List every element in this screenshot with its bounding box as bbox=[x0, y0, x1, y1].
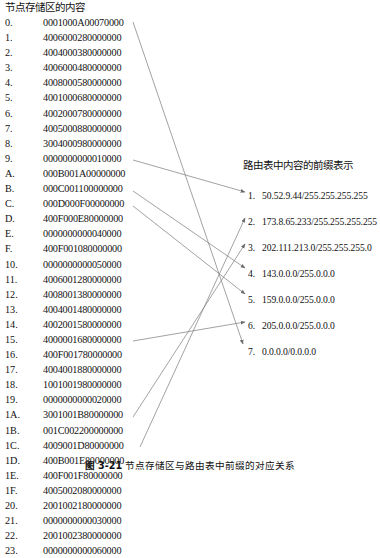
prefix-entry-number: 6. bbox=[248, 320, 262, 331]
memory-row-index: 18. bbox=[5, 377, 35, 392]
memory-row-value: 3004000980000000 bbox=[43, 136, 121, 151]
memory-row: 13. 4004001480000000 bbox=[5, 302, 155, 317]
memory-row: F. 400F001080000000 bbox=[5, 241, 155, 256]
memory-row-value: 000B001A00000000 bbox=[43, 166, 125, 181]
memory-row-index: 9. bbox=[5, 151, 35, 166]
prefix-entry: 7.0.0.0.0/0.0.0.0 bbox=[248, 346, 316, 357]
memory-row-index: 17. bbox=[5, 362, 35, 377]
memory-row: 11. 4006001280000000 bbox=[5, 272, 155, 287]
memory-row-index: B. bbox=[5, 181, 35, 196]
memory-row-value: 0000000000060000 bbox=[43, 543, 121, 558]
memory-row: 1. 4006000280000000 bbox=[5, 30, 155, 45]
memory-row: 23. 0000000000060000 bbox=[5, 543, 155, 558]
prefix-panel-title: 路由表中内容的前缀表示 bbox=[243, 157, 353, 172]
memory-row: B. 000C001100000000 bbox=[5, 181, 155, 196]
memory-row: 5. 4001000680000000 bbox=[5, 90, 155, 105]
memory-row-value: 000D000F00000000 bbox=[43, 196, 124, 211]
prefix-entry: 1.50.52.9.44/255.255.255.255 bbox=[248, 190, 368, 201]
memory-row: 16. 400F001780000000 bbox=[5, 347, 155, 362]
memory-row: 1B. 001C002200000000 bbox=[5, 423, 155, 438]
memory-row: 22. 2001002380000000 bbox=[5, 528, 155, 543]
memory-row-index: 19. bbox=[5, 392, 35, 407]
prefix-entry: 2.173.8.65.233/255.255.255.255 bbox=[248, 216, 377, 227]
memory-row-value: 2001002180000000 bbox=[43, 498, 121, 513]
memory-row: 9. 0000000000010000 bbox=[5, 151, 155, 166]
memory-row: 0. 0001000A00070000 bbox=[5, 15, 155, 30]
figure-caption: 图 3-21 节点存储区与路由表中前缀的对应关系 bbox=[0, 458, 380, 472]
memory-row-index: 8. bbox=[5, 136, 35, 151]
memory-row: D. 400F000E80000000 bbox=[5, 211, 155, 226]
memory-row-index: 22. bbox=[5, 528, 35, 543]
memory-row-index: D. bbox=[5, 211, 35, 226]
memory-row-index: 1B. bbox=[5, 423, 35, 438]
memory-row-index: 11. bbox=[5, 272, 35, 287]
prefix-entry-number: 2. bbox=[248, 216, 262, 227]
memory-row: 8. 3004000980000000 bbox=[5, 136, 155, 151]
memory-row-index: 10. bbox=[5, 257, 35, 272]
memory-row-index: 1F. bbox=[5, 483, 35, 498]
memory-row: 10. 0000000000050000 bbox=[5, 257, 155, 272]
memory-row-value: 001C002200000000 bbox=[43, 423, 123, 438]
memory-row-value: 400F001080000000 bbox=[43, 241, 122, 256]
prefix-entry-value: 159.0.0.0/255.0.0.0 bbox=[262, 294, 335, 305]
memory-row: 6. 4002000780000000 bbox=[5, 106, 155, 121]
memory-row-index: E. bbox=[5, 226, 35, 241]
memory-row-value: 0000000000010000 bbox=[43, 151, 121, 166]
prefix-entry: 5.159.0.0.0/255.0.0.0 bbox=[248, 294, 335, 305]
memory-row-value: 0000000000020000 bbox=[43, 392, 121, 407]
memory-row-value: 4006000280000000 bbox=[43, 30, 121, 45]
memory-row-index: 20. bbox=[5, 498, 35, 513]
memory-row-index: 21. bbox=[5, 513, 35, 528]
figure-caption-text: 节点存储区与路由表中前缀的对应关系 bbox=[125, 460, 295, 471]
memory-panel-title: 节点存储区的内容 bbox=[5, 1, 85, 13]
prefix-entry-value: 0.0.0.0/0.0.0.0 bbox=[262, 346, 316, 357]
memory-row-value: 4002000780000000 bbox=[43, 106, 121, 121]
memory-row-value: 400F001780000000 bbox=[43, 347, 122, 362]
memory-row: 1C. 4009001D80000000 bbox=[5, 438, 155, 453]
memory-row-index: 15. bbox=[5, 332, 35, 347]
memory-row-index: 2. bbox=[5, 45, 35, 60]
connector-row23-to-entry2 bbox=[140, 218, 245, 447]
memory-row-value: 4002001580000000 bbox=[43, 317, 121, 332]
memory-row-value: 0000000000050000 bbox=[43, 257, 121, 272]
prefix-entry: 6.205.0.0.0/255.0.0.0 bbox=[248, 320, 335, 331]
memory-row-index: 14. bbox=[5, 317, 35, 332]
memory-row-index: 12. bbox=[5, 287, 35, 302]
prefix-entry-number: 7. bbox=[248, 346, 262, 357]
memory-row-index: 3. bbox=[5, 60, 35, 75]
memory-row-value: 4000001680000000 bbox=[43, 332, 121, 347]
memory-row-index: A. bbox=[5, 166, 35, 181]
memory-row-index: 1. bbox=[5, 30, 35, 45]
memory-row-index: 6. bbox=[5, 106, 35, 121]
memory-row: 1A. 3001001B80000000 bbox=[5, 407, 155, 422]
memory-row: 20. 2001002180000000 bbox=[5, 498, 155, 513]
memory-row: 21. 0000000000030000 bbox=[5, 513, 155, 528]
memory-row: 3. 4006000480000000 bbox=[5, 60, 155, 75]
prefix-entry: 3.202.111.213.0/255.255.255.0 bbox=[248, 242, 372, 253]
prefix-entry-value: 173.8.65.233/255.255.255.255 bbox=[262, 216, 377, 227]
memory-row-value: 4004001880000000 bbox=[43, 362, 121, 377]
prefix-entry: 4.143.0.0.0/255.0.0.0 bbox=[248, 268, 335, 279]
memory-row-index: 4. bbox=[5, 75, 35, 90]
prefix-entry-value: 50.52.9.44/255.255.255.255 bbox=[262, 190, 368, 201]
prefix-entry-number: 1. bbox=[248, 190, 262, 201]
memory-row-value: 4008000580000000 bbox=[43, 75, 121, 90]
memory-row-value: 1001001980000000 bbox=[43, 377, 121, 392]
memory-row-value: 0000000000030000 bbox=[43, 513, 121, 528]
memory-row: E. 0000000000040000 bbox=[5, 226, 155, 241]
memory-row-value: 4008001380000000 bbox=[43, 287, 121, 302]
memory-row-value: 4009001D80000000 bbox=[43, 438, 124, 453]
memory-row: 7. 4005000880000000 bbox=[5, 121, 155, 136]
memory-row: 14. 4002001580000000 bbox=[5, 317, 155, 332]
prefix-entry-value: 143.0.0.0/255.0.0.0 bbox=[262, 268, 335, 279]
memory-row-index: 0. bbox=[5, 15, 35, 30]
memory-row: C. 000D000F00000000 bbox=[5, 196, 155, 211]
memory-row: 15. 4000001680000000 bbox=[5, 332, 155, 347]
memory-row-value: 4004000380000000 bbox=[43, 45, 121, 60]
memory-row: 17. 4004001880000000 bbox=[5, 362, 155, 377]
memory-row-value: 400F000E80000000 bbox=[43, 211, 123, 226]
memory-row-value: 4004001480000000 bbox=[43, 302, 121, 317]
memory-row-index: F. bbox=[5, 241, 35, 256]
memory-row-index: 23. bbox=[5, 543, 35, 558]
